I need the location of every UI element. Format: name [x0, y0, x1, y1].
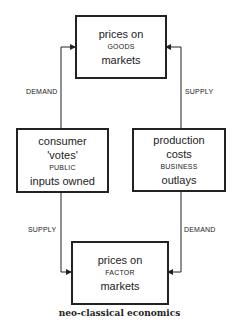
- edge-label-business-factor: DEMAND: [184, 226, 216, 233]
- business-line1: production: [153, 133, 204, 147]
- factor-line1: prices on: [98, 253, 143, 267]
- goods-line1: prices on: [99, 27, 144, 41]
- public-line3: PUBLIC: [49, 162, 76, 174]
- public-line1: consumer: [38, 134, 86, 148]
- edge-label-public-goods: DEMAND: [26, 88, 58, 95]
- business-line4: outlays: [162, 173, 197, 187]
- edge-label-business-goods: SUPPLY: [185, 88, 213, 95]
- business-line2: costs: [166, 147, 192, 161]
- factor-line3: markets: [100, 279, 139, 293]
- public-line4: inputs owned: [30, 174, 95, 188]
- factor-line2: FACTOR: [105, 267, 134, 279]
- goods-line2: GOODS: [107, 41, 134, 53]
- edge-label-public-factor: SUPPLY: [28, 226, 56, 233]
- factor-markets-box: prices on FACTOR markets: [71, 241, 169, 305]
- diagram-caption: neo-classical economics: [0, 308, 239, 318]
- public-box: consumer 'votes' PUBLIC inputs owned: [16, 128, 109, 193]
- public-line2: 'votes': [47, 148, 78, 162]
- goods-line3: markets: [101, 53, 140, 67]
- goods-markets-box: prices on GOODS markets: [75, 15, 167, 79]
- business-line3: BUSINESS: [161, 161, 198, 173]
- business-box: production costs BUSINESS outlays: [132, 128, 226, 192]
